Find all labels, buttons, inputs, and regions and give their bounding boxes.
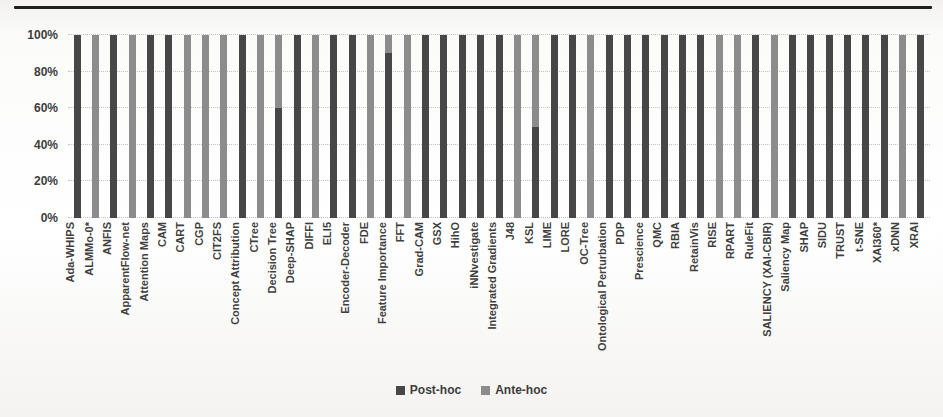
bar xyxy=(734,35,741,218)
bar xyxy=(551,35,558,218)
bar-segment-ante-hoc xyxy=(367,35,374,218)
bar xyxy=(312,35,319,218)
x-axis-label: Attention Maps xyxy=(137,222,151,378)
y-axis-tick-label: 20% xyxy=(12,174,58,188)
bar-segment-post-hoc xyxy=(862,35,869,218)
bar-segment-post-hoc xyxy=(826,35,833,218)
x-axis-label: Decision Tree xyxy=(265,222,279,378)
bar xyxy=(440,35,447,218)
bar xyxy=(716,35,723,218)
x-axis-label: TRUST xyxy=(833,222,847,378)
x-axis-label: Integrated Gradients xyxy=(485,222,499,378)
bar xyxy=(220,35,227,218)
x-axis-label: HihO xyxy=(448,222,462,378)
x-axis-label: RISE xyxy=(705,222,719,378)
x-axis-label: J48 xyxy=(503,222,517,378)
bar xyxy=(110,35,117,218)
x-axis-label: QMC xyxy=(650,222,664,378)
bar-segment-post-hoc xyxy=(881,35,888,218)
x-axis-label: t-SNE xyxy=(852,222,866,378)
bar xyxy=(349,35,356,218)
bar xyxy=(661,35,668,218)
bar-segment-post-hoc xyxy=(477,35,484,218)
bar xyxy=(165,35,172,218)
x-axis-label: RetainVis xyxy=(687,222,701,378)
x-axis-label: OC-Tree xyxy=(577,222,591,378)
y-axis-tick-label: 80% xyxy=(12,65,58,79)
y-axis-tick-label: 40% xyxy=(12,138,58,152)
bar xyxy=(184,35,191,218)
top-divider-rule xyxy=(14,6,932,9)
bar xyxy=(624,35,631,218)
bar xyxy=(294,35,301,218)
bar-segment-post-hoc xyxy=(330,35,337,218)
bar-segment-ante-hoc xyxy=(202,35,209,218)
x-axis-label: FDE xyxy=(357,222,371,378)
bar-segment-post-hoc xyxy=(642,35,649,218)
bar-segment-ante-hoc xyxy=(514,35,521,218)
bar xyxy=(275,35,282,218)
bar-segment-ante-hoc xyxy=(92,35,99,218)
ante-hoc-swatch-icon xyxy=(481,386,490,395)
bar-segment-ante-hoc xyxy=(257,35,264,218)
plot-area xyxy=(68,35,930,218)
bar xyxy=(826,35,833,218)
x-axis-label: Grad-CAM xyxy=(412,222,426,378)
bar xyxy=(147,35,154,218)
x-axis-label: ANFIS xyxy=(100,222,114,378)
bar-segment-post-hoc xyxy=(440,35,447,218)
legend-label-ante-hoc: Ante-hoc xyxy=(495,383,547,397)
bar-segment-post-hoc xyxy=(496,35,503,218)
bar-segment-post-hoc xyxy=(789,35,796,218)
bar-segment-post-hoc xyxy=(110,35,117,218)
bar xyxy=(532,35,539,218)
bar-segment-post-hoc xyxy=(239,35,246,218)
x-axis-label: KSL xyxy=(522,222,536,378)
bar xyxy=(642,35,649,218)
x-axis-label: RuleFit xyxy=(742,222,756,378)
bar-segment-ante-hoc xyxy=(184,35,191,218)
bar-segment-post-hoc xyxy=(294,35,301,218)
bar-segment-ante-hoc xyxy=(734,35,741,218)
bar xyxy=(367,35,374,218)
bar xyxy=(92,35,99,218)
bar-segment-ante-hoc xyxy=(275,35,282,108)
x-axis-label: DIFFI xyxy=(302,222,316,378)
bar xyxy=(881,35,888,218)
x-axis-label: XAI360* xyxy=(870,222,884,378)
x-axis-label: LIME xyxy=(540,222,554,378)
bar xyxy=(789,35,796,218)
bar xyxy=(807,35,814,218)
x-axis-label: Deep-SHAP xyxy=(283,222,297,378)
bar xyxy=(422,35,429,218)
bar-segment-post-hoc xyxy=(165,35,172,218)
bar xyxy=(404,35,411,218)
bar-segment-post-hoc xyxy=(624,35,631,218)
bar-segment-ante-hoc xyxy=(587,35,594,218)
post-hoc-swatch-icon xyxy=(396,386,405,395)
bar-segment-post-hoc xyxy=(679,35,686,218)
bar xyxy=(477,35,484,218)
bar xyxy=(496,35,503,218)
bar xyxy=(587,35,594,218)
x-axis-label: SHAP xyxy=(797,222,811,378)
bar xyxy=(514,35,521,218)
bar-segment-ante-hoc xyxy=(771,35,778,218)
bar-segment-ante-hoc xyxy=(385,35,392,53)
bar-segment-post-hoc xyxy=(551,35,558,218)
bar-segment-post-hoc xyxy=(917,35,924,218)
bar xyxy=(917,35,924,218)
x-axis-label: RPART xyxy=(723,222,737,378)
bar xyxy=(330,35,337,218)
legend: Post-hoc Ante-hoc xyxy=(0,383,943,397)
y-axis-tick-label: 100% xyxy=(12,28,58,42)
x-axis-label: CGP xyxy=(192,222,206,378)
bar-segment-ante-hoc xyxy=(716,35,723,218)
bar xyxy=(771,35,778,218)
bar-segment-post-hoc xyxy=(569,35,576,218)
x-axis-label: SALIENCY (XAI-CBIR) xyxy=(760,222,774,378)
x-axis-label: Prescience xyxy=(632,222,646,378)
bar xyxy=(239,35,246,218)
x-axis-label: xDNN xyxy=(888,222,902,378)
bar xyxy=(202,35,209,218)
